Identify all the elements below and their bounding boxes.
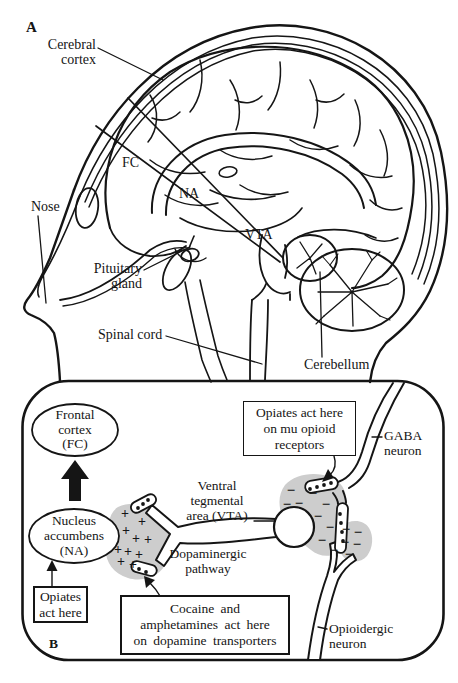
plus-sign: + <box>122 523 130 538</box>
diagram-artwork: ++++++++++−−−−−−−−−−−−−− <box>0 0 458 683</box>
node-label-frontal-cortex: Frontal cortex (FC) <box>33 408 117 452</box>
node-label-ventral-tegmental-area: Ventral tegmental area (VTA) <box>181 478 253 523</box>
vta-cell-body <box>274 507 314 547</box>
leader-lines-a <box>38 48 322 364</box>
na-to-fc-arrow <box>61 460 89 501</box>
plus-sign: + <box>144 532 152 547</box>
vesicle-dot <box>141 502 145 506</box>
label-vta: VTA <box>245 227 273 242</box>
minus-sign: − <box>295 495 304 511</box>
minus-sign: − <box>314 508 323 524</box>
label-cerebral-cortex: Cerebral cortex <box>38 37 96 67</box>
plus-sign: + <box>121 506 129 521</box>
minus-sign: − <box>345 546 354 562</box>
node-label-nucleus-accumbens: Nucleus accumbens (NA) <box>30 513 118 558</box>
panel-b-label: B <box>49 636 58 651</box>
minus-sign: − <box>353 536 362 552</box>
plus-sign: + <box>129 557 137 572</box>
node-label-gaba-neuron: GABA neuron <box>384 428 422 458</box>
brain-outline-group <box>96 47 414 331</box>
label-cerebellum: Cerebellum <box>304 357 369 372</box>
vesicle-dot <box>144 570 148 574</box>
minus-sign: − <box>283 496 292 512</box>
vesicle-dot <box>136 506 140 510</box>
vesicle-dot <box>339 521 343 525</box>
vesicle-dot <box>329 481 333 485</box>
vesicle-dot <box>322 483 326 487</box>
plus-sign: + <box>132 531 140 546</box>
callout-opiates-mu-receptors: Opiates act here on mu opioid receptors <box>243 401 356 456</box>
minus-sign: − <box>330 542 339 558</box>
node-label-opioidergic-neuron: Opioidergic neuron <box>329 621 393 651</box>
panel-a-label: A <box>26 20 37 35</box>
head-outline-group <box>24 25 447 382</box>
figure-canvas: ++++++++++−−−−−−−−−−−−−− A Cerebral cort… <box>0 0 458 683</box>
label-fc: FC <box>122 155 139 170</box>
minus-sign: − <box>318 532 327 548</box>
label-na: NA <box>179 186 199 201</box>
label-nose: Nose <box>31 199 60 214</box>
vesicle-dot <box>315 485 319 489</box>
vesicle-dot <box>338 512 342 516</box>
label-spinal-cord: Spinal cord <box>98 327 162 342</box>
callout-opiates-act-here-na: Opiates act here <box>33 586 88 623</box>
plus-sign: + <box>117 554 125 569</box>
node-label-dopaminergic-pathway: Dopaminergic pathway <box>166 546 250 576</box>
callout-cocaine-amphetamines: Cocaine and amphetamines act here on dop… <box>120 595 290 655</box>
vesicle-dot <box>137 567 141 571</box>
minus-sign: − <box>326 519 335 535</box>
vesicle-dot <box>340 530 344 534</box>
minus-sign: − <box>322 496 331 512</box>
vesicle-dot <box>308 487 312 491</box>
plus-sign: + <box>138 514 146 529</box>
vesicle-dot <box>146 498 150 502</box>
label-pituitary-gland: Pituitary gland <box>86 261 142 291</box>
vesicle-dot <box>341 539 345 543</box>
